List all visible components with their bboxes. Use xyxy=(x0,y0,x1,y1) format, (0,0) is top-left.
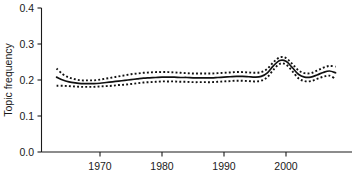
y-axis-ticks: 0.00.10.20.30.4 xyxy=(19,2,41,158)
line-chart: Topic frequency 0.00.10.20.30.4 19701980… xyxy=(0,0,357,186)
y-tick-label: 0.2 xyxy=(19,74,34,86)
y-tick-label: 0.1 xyxy=(19,110,34,122)
x-axis-ticks: 1970198019902000 xyxy=(88,152,298,172)
x-tick-label: 1990 xyxy=(212,160,236,172)
y-tick-label: 0.0 xyxy=(19,146,34,158)
x-tick-label: 1970 xyxy=(88,160,112,172)
data-series-group xyxy=(57,57,336,87)
x-tick-label: 2000 xyxy=(274,160,298,172)
y-tick-label: 0.3 xyxy=(19,38,34,50)
y-tick-label: 0.4 xyxy=(19,2,34,14)
chart-figure: Topic frequency 0.00.10.20.30.4 19701980… xyxy=(0,0,357,186)
x-tick-label: 1980 xyxy=(150,160,174,172)
y-axis-label: Topic frequency xyxy=(2,42,14,116)
